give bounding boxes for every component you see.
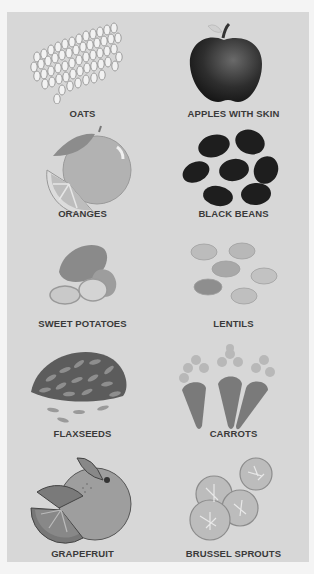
food-label: LENTILS bbox=[158, 318, 309, 329]
lentils-icon bbox=[158, 232, 309, 324]
food-item-oats: OATS bbox=[7, 12, 158, 122]
food-item-apples: APPLES WITH SKIN bbox=[158, 12, 309, 122]
food-label: BRUSSEL SPROUTS bbox=[158, 548, 309, 559]
food-item-lentils: LENTILS bbox=[158, 232, 309, 342]
apple-icon bbox=[158, 12, 309, 104]
food-item-black-beans: BLACK BEANS bbox=[158, 122, 309, 232]
brussel-sprouts-icon bbox=[158, 452, 309, 544]
food-item-sweet-potatoes: SWEET POTATOES bbox=[7, 232, 158, 342]
flaxseeds-icon bbox=[7, 342, 158, 434]
food-item-flaxseeds: FLAXSEEDS bbox=[7, 342, 158, 452]
food-label: BLACK BEANS bbox=[158, 208, 309, 219]
food-label: OATS bbox=[7, 108, 158, 119]
carrot-icon bbox=[158, 342, 309, 434]
food-grid-panel: OATS APPLES WITH SKIN bbox=[7, 12, 309, 562]
food-item-oranges: ORANGES bbox=[7, 122, 158, 232]
black-beans-icon bbox=[158, 122, 309, 214]
food-item-carrots: CARROTS bbox=[158, 342, 309, 452]
food-label: APPLES WITH SKIN bbox=[158, 108, 309, 119]
sweet-potato-icon bbox=[7, 232, 158, 324]
orange-icon bbox=[7, 122, 158, 214]
food-item-grapefruit: GRAPEFRUIT bbox=[7, 452, 158, 562]
food-item-brussel-sprouts: BRUSSEL SPROUTS bbox=[158, 452, 309, 562]
food-label: SWEET POTATOES bbox=[7, 318, 158, 329]
food-label: FLAXSEEDS bbox=[7, 428, 158, 439]
food-label: CARROTS bbox=[158, 428, 309, 439]
food-label: ORANGES bbox=[7, 208, 158, 219]
oats-icon bbox=[7, 12, 158, 104]
food-label: GRAPEFRUIT bbox=[7, 548, 158, 559]
grapefruit-icon bbox=[7, 452, 158, 544]
